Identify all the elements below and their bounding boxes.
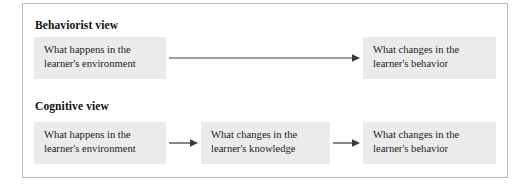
concept-box-line-1: What happens in the (44, 43, 157, 57)
diagram-frame: Behaviorist view What happens in the lea… (22, 3, 508, 178)
concept-box-behaviorist-behavior: What changes in the learner's behavior (363, 37, 496, 79)
concept-box-line-2: learner's knowledge (211, 142, 321, 156)
concept-box-behaviorist-environment: What happens in the learner's environmen… (34, 37, 166, 79)
arrow-cognitive-knowledge-to-behavior (333, 138, 361, 148)
concept-box-cognitive-environment: What happens in the learner's environmen… (34, 122, 166, 164)
concept-box-line-1: What changes in the (211, 128, 321, 142)
concept-box-line-1: What happens in the (44, 128, 157, 142)
row-cognitive: What happens in the learner's environmen… (23, 122, 507, 166)
concept-box-line-2: learner's behavior (373, 57, 487, 71)
concept-box-line-2: learner's environment (44, 57, 157, 71)
arrow-cognitive-environment-to-knowledge (169, 138, 199, 148)
section-heading-behaviorist: Behaviorist view (35, 19, 118, 32)
concept-box-line-2: learner's behavior (373, 142, 487, 156)
section-heading-cognitive: Cognitive view (35, 100, 109, 113)
concept-box-cognitive-behavior: What changes in the learner's behavior (363, 122, 496, 164)
row-behaviorist: What happens in the learner's environmen… (23, 37, 507, 81)
concept-box-cognitive-knowledge: What changes in the learner's knowledge (201, 122, 330, 164)
concept-box-line-1: What changes in the (373, 43, 487, 57)
concept-box-line-2: learner's environment (44, 142, 157, 156)
arrow-behaviorist-environment-to-behavior (169, 53, 361, 63)
concept-box-line-1: What changes in the (373, 128, 487, 142)
